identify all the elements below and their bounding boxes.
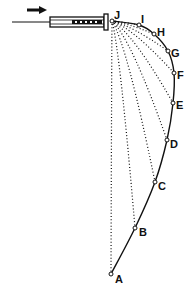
point-label-j: J bbox=[114, 9, 120, 21]
syringe bbox=[12, 14, 108, 30]
dotted-line-a bbox=[111, 21, 112, 274]
syringe-plunger-flange bbox=[104, 14, 108, 30]
dotted-line-b bbox=[112, 21, 135, 228]
diagram-canvas: JIHGFEDCBA bbox=[0, 0, 191, 291]
point-label-b: B bbox=[139, 226, 147, 238]
point-marker-d bbox=[165, 138, 169, 142]
point-label-a: A bbox=[115, 273, 123, 285]
point-marker-e bbox=[171, 101, 175, 105]
point-label-h: H bbox=[157, 26, 165, 38]
point-marker-c bbox=[153, 180, 157, 184]
direction-arrow-icon bbox=[27, 6, 47, 14]
dotted-line-c bbox=[112, 21, 155, 182]
point-label-i: I bbox=[141, 13, 144, 25]
point-label-c: C bbox=[158, 180, 166, 192]
point-marker-f bbox=[172, 71, 176, 75]
point-marker-b bbox=[133, 226, 137, 230]
point-marker-h bbox=[152, 32, 156, 36]
point-marker-g bbox=[166, 49, 170, 53]
point-label-g: G bbox=[171, 47, 180, 59]
point-label-d: D bbox=[170, 138, 178, 150]
point-label-f: F bbox=[177, 69, 184, 81]
point-marker-a bbox=[109, 272, 113, 276]
point-label-e: E bbox=[176, 99, 183, 111]
